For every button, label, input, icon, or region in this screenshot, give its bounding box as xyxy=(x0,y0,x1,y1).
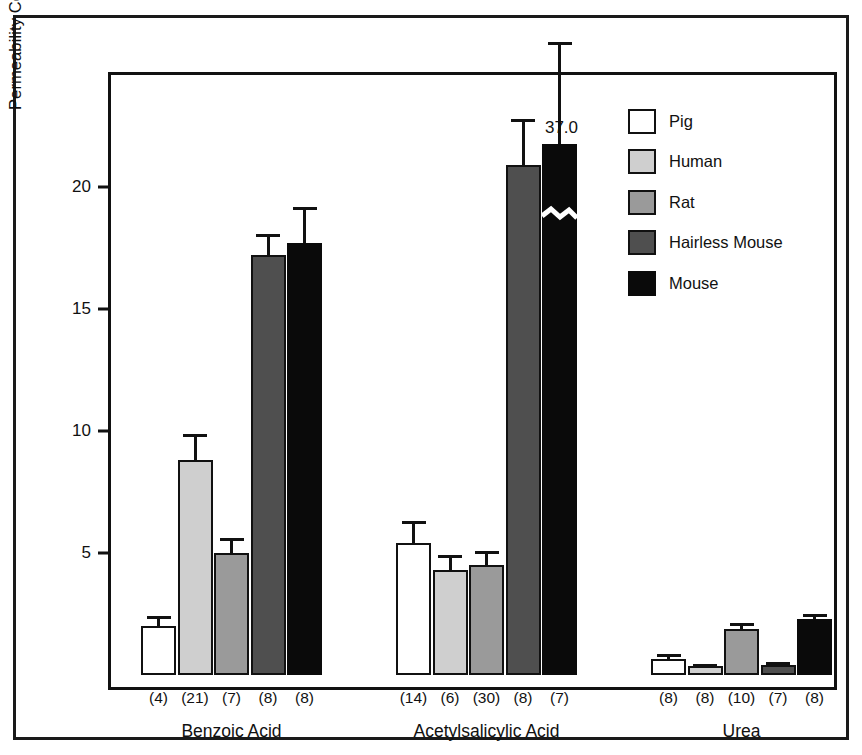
bar-human-benzoic-acid xyxy=(178,460,213,675)
error-bar-cap xyxy=(220,538,244,541)
error-bar-cap xyxy=(657,654,681,657)
legend-label: Pig xyxy=(669,112,693,131)
y-tick-label: 10 xyxy=(43,421,91,441)
y-axis-label: Permeability Constant x 104 (BA) and x 1… xyxy=(4,0,25,110)
figure-outer-border: Permeability Constant x 104 (BA) and x 1… xyxy=(13,15,849,740)
bar-pig-urea xyxy=(651,659,686,675)
bar-hairless-mouse-benzoic-acid xyxy=(251,255,286,675)
legend-label: Mouse xyxy=(669,274,719,293)
sample-size-label: (8) xyxy=(259,689,278,707)
error-bar-cap xyxy=(511,119,535,122)
error-bar-stem xyxy=(267,234,270,256)
group-label-acetylsalicylic-acid: Acetylsalicylic Acid xyxy=(414,721,560,742)
error-bar-stem xyxy=(412,521,415,543)
legend-swatch-icon xyxy=(628,230,656,255)
y-axis-label-part1: Permeability Constant x 10 xyxy=(6,0,24,110)
sample-size-label: (8) xyxy=(696,689,715,707)
bar-mouse-benzoic-acid xyxy=(287,243,322,675)
legend-item-mouse: Mouse xyxy=(628,266,783,300)
sample-size-label: (8) xyxy=(659,689,678,707)
legend: PigHumanRatHairless MouseMouse xyxy=(628,104,783,307)
error-bar-cap xyxy=(766,662,790,665)
error-bar-cap xyxy=(693,664,717,667)
error-bar-cap xyxy=(183,434,207,437)
sample-size-label: (30) xyxy=(473,689,501,707)
legend-swatch-icon xyxy=(628,109,656,134)
group-label-urea: Urea xyxy=(723,721,761,742)
bar-rat-acetylsalicylic-acid xyxy=(469,565,504,675)
error-bar-cap xyxy=(730,623,754,626)
bar-hairless-mouse-acetylsalicylic-acid xyxy=(506,165,541,675)
error-bar-cap xyxy=(803,614,827,617)
bar-rat-urea xyxy=(724,629,759,675)
y-tick-mark xyxy=(98,552,109,555)
sample-size-label: (21) xyxy=(181,689,209,707)
bar-mouse-acetylsalicylic-acid xyxy=(542,144,577,675)
error-bar-cap xyxy=(402,521,426,524)
sample-size-label: (8) xyxy=(514,689,533,707)
sample-size-label: (7) xyxy=(769,689,788,707)
legend-item-pig: Pig xyxy=(628,104,783,138)
sample-size-label: (14) xyxy=(400,689,428,707)
legend-swatch-icon xyxy=(628,190,656,215)
legend-swatch-icon xyxy=(628,149,656,174)
y-tick-label: 20 xyxy=(43,177,91,197)
bar-rat-benzoic-acid xyxy=(214,553,249,675)
bar-mouse-urea xyxy=(797,619,832,675)
error-bar-stem xyxy=(522,119,525,165)
group-label-benzoic-acid: Benzoic Acid xyxy=(181,721,281,742)
y-tick-mark xyxy=(98,308,109,311)
error-bar-cap xyxy=(548,42,572,45)
bar-pig-acetylsalicylic-acid xyxy=(396,543,431,675)
bar-human-acetylsalicylic-acid xyxy=(433,570,468,675)
y-tick-mark xyxy=(98,186,109,189)
sample-size-label: (7) xyxy=(550,689,569,707)
legend-item-rat: Rat xyxy=(628,185,783,219)
y-tick-label: 15 xyxy=(43,299,91,319)
legend-label: Hairless Mouse xyxy=(669,233,783,252)
bar-human-urea xyxy=(688,666,723,675)
error-bar-cap xyxy=(147,616,171,619)
sample-size-label: (8) xyxy=(295,689,314,707)
legend-item-human: Human xyxy=(628,145,783,179)
error-bar-cap xyxy=(256,234,280,237)
bar-hairless-mouse-urea xyxy=(761,665,796,675)
error-bar-stem xyxy=(194,434,197,461)
figure-page: Permeability Constant x 104 (BA) and x 1… xyxy=(0,0,862,755)
sample-size-label: (4) xyxy=(149,689,168,707)
legend-label: Rat xyxy=(669,193,695,212)
legend-swatch-icon xyxy=(628,271,656,296)
y-tick-mark xyxy=(98,430,109,433)
sample-size-label: (7) xyxy=(222,689,241,707)
sample-size-label: (10) xyxy=(728,689,756,707)
sample-size-label: (6) xyxy=(441,689,460,707)
bar-pig-benzoic-acid xyxy=(141,626,176,675)
error-bar-stem xyxy=(303,207,306,244)
bar-value-label: 37.0 xyxy=(545,118,578,138)
y-tick-label: 5 xyxy=(43,543,91,563)
legend-item-hairless-mouse: Hairless Mouse xyxy=(628,226,783,260)
error-bar-cap xyxy=(475,551,499,554)
sample-size-label: (8) xyxy=(805,689,824,707)
legend-label: Human xyxy=(669,152,722,171)
error-bar-cap xyxy=(293,207,317,210)
error-bar-cap xyxy=(438,555,462,558)
